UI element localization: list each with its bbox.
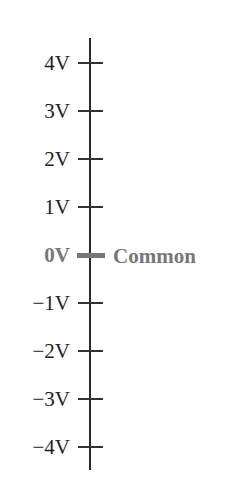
tick-minus-2v — [78, 350, 103, 352]
tick-label-3v: 3V — [44, 101, 70, 122]
tick-minus-1v — [78, 302, 103, 304]
tick-label-0v: 0V — [44, 245, 70, 266]
tick-1v — [78, 206, 103, 208]
tick-0v-common — [77, 253, 105, 258]
tick-label-4v: 4V — [44, 53, 70, 74]
tick-label-1v: 1V — [44, 197, 70, 218]
tick-minus-4v — [78, 446, 103, 448]
tick-2v — [78, 158, 103, 160]
tick-4v — [78, 62, 103, 64]
common-reference-label: Common — [113, 246, 196, 267]
tick-label-minus-3v: −3V — [32, 389, 70, 410]
tick-label-2v: 2V — [44, 149, 70, 170]
voltage-scale-diagram: 4V 3V 2V 1V 0V Common −1V −2V −3V −4V — [0, 0, 228, 500]
tick-label-minus-2v: −2V — [32, 341, 70, 362]
tick-label-minus-4v: −4V — [32, 437, 70, 458]
tick-3v — [78, 110, 103, 112]
tick-label-minus-1v: −1V — [32, 293, 70, 314]
tick-minus-3v — [78, 398, 103, 400]
